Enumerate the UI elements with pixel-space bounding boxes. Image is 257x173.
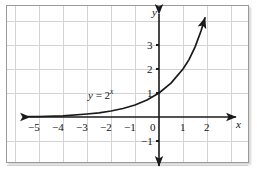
x-tick-label--4: −4 bbox=[52, 122, 64, 133]
x-tick-label--1: −1 bbox=[124, 122, 136, 133]
x-tick-label-2: 2 bbox=[204, 122, 210, 133]
x-tick-label--5: −5 bbox=[28, 122, 40, 133]
curve-equation-label: y = 2x bbox=[88, 88, 113, 101]
graph-figure: −5 −4 −3 −2 −1 0 1 2 3 2 1 −1 y x y = 2x bbox=[0, 0, 257, 173]
y-tick-label-3: 3 bbox=[147, 40, 153, 51]
curve-label-exponent: x bbox=[110, 87, 113, 96]
y-tick-label--1: −1 bbox=[141, 136, 153, 147]
x-tick-label--2: −2 bbox=[100, 122, 112, 133]
curve-label-equals: = bbox=[93, 89, 105, 101]
y-tick-label-1: 1 bbox=[147, 88, 153, 99]
x-axis-name: x bbox=[236, 119, 241, 130]
y-tick-label-2: 2 bbox=[147, 64, 153, 75]
x-tick-label-0: 0 bbox=[150, 122, 156, 133]
y-axis-name: y bbox=[152, 7, 157, 18]
plot-frame bbox=[6, 5, 249, 163]
x-tick-label--3: −3 bbox=[76, 122, 88, 133]
x-tick-label-1: 1 bbox=[180, 122, 186, 133]
